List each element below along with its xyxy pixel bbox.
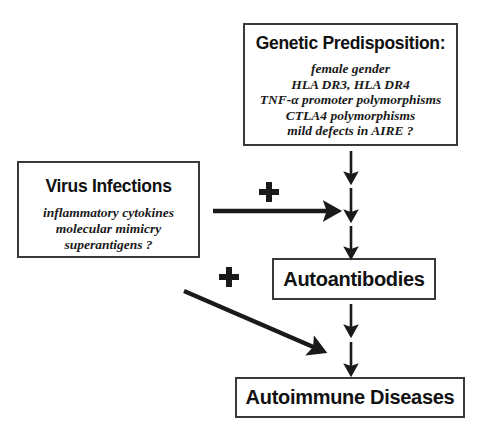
diagram-canvas: Genetic Predisposition: female gender HL… [0,0,484,438]
genetic-predisposition-item: mild defects in AIRE ? [260,123,441,139]
virus-infections-box: Virus Infections inflammatory cytokines … [17,161,200,258]
genetic-predisposition-title: Genetic Predisposition: [256,33,446,54]
autoantibodies-title: Autoantibodies [283,268,424,291]
autoimmune-diseases-box: Autoimmune Diseases [235,377,465,418]
virus-infections-title: Virus Infections [45,176,171,197]
plus-sign-virus-autoantibodies-icon [219,267,239,287]
virus-infections-item: molecular mimicry [43,221,174,237]
virus-infections-item: superantigens ? [43,237,174,253]
virus-infections-item: inflammatory cytokines [43,205,174,221]
genetic-predisposition-item: HLA DR3, HLA DR4 [260,77,441,93]
autoantibodies-box: Autoantibodies [272,258,436,300]
genetic-predisposition-box: Genetic Predisposition: female gender HL… [243,23,458,146]
plus-sign-virus-genetic-icon [259,182,279,202]
genetic-predisposition-item-list: female gender HLA DR3, HLA DR4 TNF-α pro… [260,61,441,139]
genetic-predisposition-item: female gender [260,61,441,77]
genetic-predisposition-item: TNF-α promoter polymorphisms [260,92,441,108]
genetic-predisposition-item: CTLA4 polymorphisms [260,108,441,124]
autoimmune-diseases-title: Autoimmune Diseases [246,386,455,409]
virus-infections-item-list: inflammatory cytokines molecular mimicry… [43,205,174,253]
